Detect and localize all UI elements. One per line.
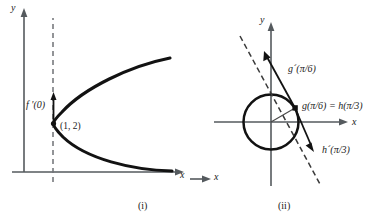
- panel-i-y-axis-arrowhead: [21, 8, 28, 17]
- panel-i-point-label: (1, 2): [60, 122, 81, 132]
- panel-i-derivative-vector-label: f '(0): [26, 100, 45, 110]
- panel-ii-g-prime-vector-arrowhead: [263, 51, 270, 61]
- panel-ii-g-prime-label: g´(π/6): [288, 64, 316, 74]
- panel-ii-caption: (ii): [278, 201, 290, 211]
- panel-ii-y-axis-label: y: [260, 15, 264, 25]
- panel-i-tangent-vector-arrowhead: [51, 92, 57, 100]
- panel-ii-x-axis-arrowhead: [339, 119, 348, 126]
- panel-ii-radius-segment: [271, 108, 295, 122]
- panel-ii-stray-x-axis-arrowhead: [202, 176, 211, 183]
- panel-ii-dashed-tangent-line: [240, 36, 321, 186]
- panel-ii-y-axis-arrowhead: [268, 22, 275, 31]
- panel-ii-stray-x-axis-label: x: [214, 172, 218, 182]
- panel-ii-h-prime-vector-arrowhead: [306, 143, 314, 152]
- panel-ii-point-equality-label: g(π/6) = h(π/3): [302, 101, 363, 111]
- panel-i-x-axis-label: x: [180, 170, 184, 180]
- panel-i-graphics: [12, 8, 184, 182]
- panel-i-caption: (i): [138, 201, 147, 211]
- panel-i-parabola-curve: [54, 58, 173, 171]
- panel-ii-point-marker: [292, 105, 297, 110]
- panel-i-point-marker: [51, 121, 56, 126]
- panel-ii-h-prime-label: h´(π/3): [322, 145, 350, 155]
- math-figure-pair: y x f '(0) (1, 2) (i) y x x g´(π/6) g(π/…: [0, 0, 379, 221]
- panel-ii-x-axis-label: x: [352, 117, 356, 127]
- panel-i-y-axis-label: y: [11, 3, 15, 13]
